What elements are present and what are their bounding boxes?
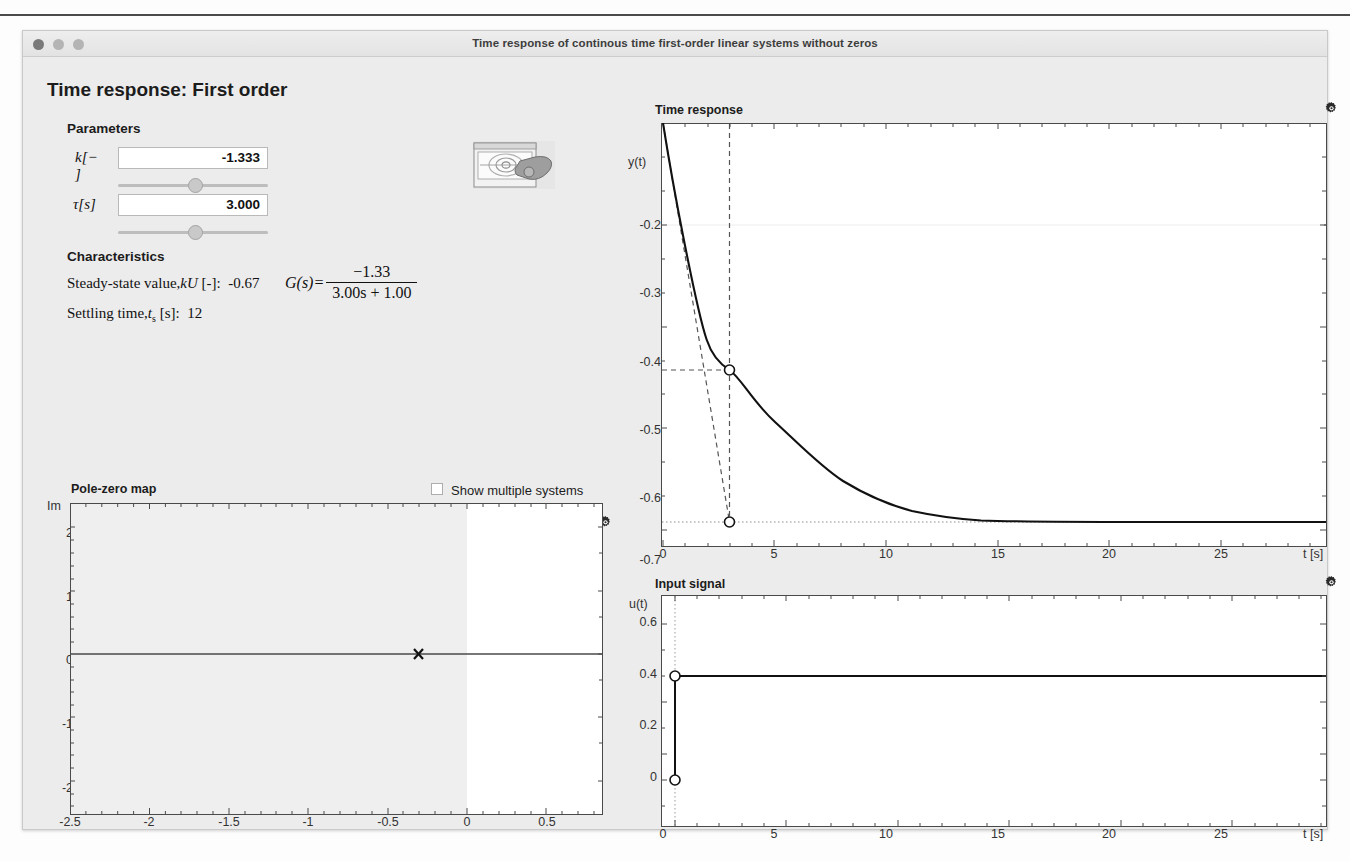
input-signal-ytick-1: 0.4 [627, 667, 657, 681]
show-multiple-systems-checkbox[interactable] [431, 483, 443, 495]
slider-knob-tau[interactable] [188, 225, 203, 240]
pole-zero-ytick-1: 1 [43, 590, 73, 604]
window-title: Time response of continous time first-or… [23, 37, 1327, 49]
input-signal-xlabel: t [s] [1303, 827, 1323, 841]
pole-zero-map-panel: Pole-zero map Show multiple systems Im R… [43, 485, 603, 815]
input-signal-title: Input signal [655, 577, 725, 591]
pole-zero-xtick-3: -1 [288, 815, 328, 829]
parameter-slider-tau[interactable] [118, 224, 268, 240]
parameter-label-tau: τ[s] [73, 196, 96, 213]
parameter-input-tau[interactable]: 3.000 [118, 194, 268, 216]
time-response-ytick-1: -0.3 [627, 286, 661, 300]
input-signal-canvas[interactable] [661, 595, 1327, 827]
pole-zero-xtick-4: -0.5 [368, 815, 408, 829]
time-response-ytick-0: -0.2 [627, 218, 661, 232]
time-response-xtick-2: 10 [866, 547, 906, 561]
transfer-function-denominator: 3.00s + 1.00 [326, 282, 417, 302]
input-signal-xtick-2: 10 [866, 827, 906, 841]
pole-zero-ytick-2: 0 [43, 653, 73, 667]
hand-pointing-at-window-icon [473, 141, 555, 189]
characteristic-settling-time-value: 12 [187, 305, 202, 321]
window-titlebar[interactable]: Time response of continous time first-or… [23, 31, 1327, 57]
time-response-ytick-3: -0.5 [627, 423, 661, 437]
time-response-xtick-5: 25 [1201, 547, 1241, 561]
time-response-panel: Time response y(t) t [s] -0.2 -0.3 -0.4 … [627, 103, 1339, 569]
parameter-input-k[interactable]: -1.333 [118, 147, 268, 169]
parameter-label-k: k[− ] [75, 149, 98, 183]
pole-zero-ytick-3: -1 [43, 717, 73, 731]
characteristic-settling-time-label: Settling time, [67, 305, 148, 321]
time-response-xtick-0: 0 [643, 547, 683, 561]
input-signal-panel: Input signal u(t) t [s] 0.6 0.4 0.2 0 0 [627, 577, 1339, 847]
screenshot-root: Time response of continous time first-or… [0, 0, 1350, 862]
pole-zero-ytick-4: -2 [43, 781, 73, 795]
pole-zero-xtick-0: -2.5 [50, 815, 90, 829]
input-signal-ytick-0: 0.6 [627, 615, 657, 629]
time-response-xtick-4: 20 [1089, 547, 1129, 561]
steady-state-point-marker [725, 517, 735, 527]
input-signal-gear-icon[interactable] [1324, 575, 1339, 590]
window-body: Time response: First order Parameters [23, 57, 1327, 829]
input-signal-ytick-2: 0.2 [627, 718, 657, 732]
characteristic-settling-time-units: [s] [160, 305, 176, 321]
input-signal-ytick-3: 0 [627, 770, 657, 784]
slider-knob-k[interactable] [188, 178, 203, 193]
tau-point-marker [725, 365, 735, 375]
input-signal-xtick-4: 20 [1089, 827, 1129, 841]
pole-zero-xtick-6: 0.5 [527, 815, 567, 829]
input-signal-xtick-1: 5 [754, 827, 794, 841]
characteristic-steady-state: Steady-state value,kU [-]: -0.67 [67, 275, 259, 292]
transfer-function-lhs: G(s)= [285, 274, 324, 292]
pole-zero-map-title: Pole-zero map [71, 482, 156, 496]
transfer-function-fraction: −1.33 3.00s + 1.00 [326, 263, 417, 302]
transfer-function-formula: G(s)= −1.33 3.00s + 1.00 [285, 263, 417, 302]
characteristics-heading: Characteristics [67, 249, 165, 264]
parameters-heading: Parameters [67, 121, 141, 136]
time-response-ytick-2: -0.4 [627, 355, 661, 369]
pole-zero-xtick-5: 0 [447, 815, 487, 829]
pole-zero-xtick-1: -2 [129, 815, 169, 829]
transfer-function-numerator: −1.33 [347, 263, 396, 282]
characteristic-steady-state-symbol: kU [180, 275, 198, 291]
top-divider [0, 14, 1350, 16]
time-response-gear-icon[interactable] [1324, 101, 1339, 116]
app-window: Time response of continous time first-or… [22, 30, 1328, 830]
step-high-point-marker [670, 671, 680, 681]
input-signal-ylabel: u(t) [629, 597, 648, 611]
pole-zero-ytick-0: 2 [43, 526, 73, 540]
pole-zero-map-canvas[interactable] [70, 503, 603, 815]
parameter-slider-k[interactable] [118, 177, 268, 193]
time-response-xlabel: t [s] [1303, 547, 1323, 561]
time-response-ytick-4: -0.6 [627, 491, 661, 505]
input-signal-xtick-5: 25 [1201, 827, 1241, 841]
characteristic-settling-time: Settling time,ts [s]: 12 [67, 305, 202, 324]
time-response-title: Time response [655, 103, 743, 117]
characteristic-settling-time-sep: : [176, 305, 180, 321]
step-low-point-marker [670, 775, 680, 785]
input-signal-xtick-3: 15 [978, 827, 1018, 841]
characteristic-steady-state-label: Steady-state value, [67, 275, 180, 291]
time-response-xtick-3: 15 [978, 547, 1018, 561]
pole-zero-xtick-2: -1.5 [209, 815, 249, 829]
show-multiple-systems-label[interactable]: Show multiple systems [451, 483, 583, 498]
input-signal-xtick-0: 0 [643, 827, 683, 841]
time-response-canvas[interactable] [661, 123, 1327, 547]
characteristic-steady-state-units: [-] [202, 275, 217, 291]
characteristic-steady-state-sep: : [217, 275, 221, 291]
time-response-ylabel: y(t) [628, 155, 646, 169]
characteristic-steady-state-value: -0.67 [228, 275, 259, 291]
page-title: Time response: First order [47, 79, 287, 101]
pole-zero-ylabel: Im [47, 499, 61, 513]
time-response-xtick-1: 5 [754, 547, 794, 561]
